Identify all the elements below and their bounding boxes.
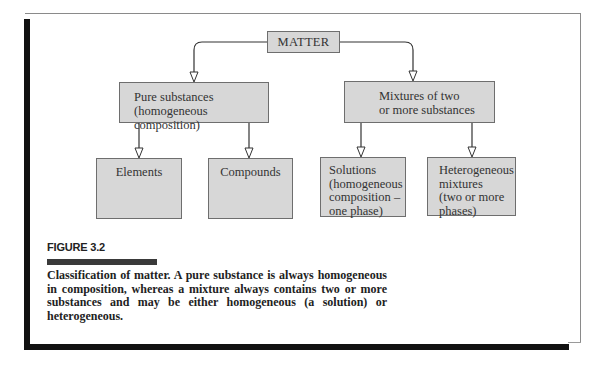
node-heterogeneous-mixtures: Heterogeneous mixtures (two or more phas…: [427, 157, 516, 216]
frame-right-foot: [568, 342, 581, 343]
figure-label-bar: [47, 259, 157, 265]
node-label: Pure substances (homogeneous composition…: [134, 90, 268, 132]
frame-top-border: [25, 13, 581, 14]
frame-left-bar: [24, 19, 30, 350]
node-elements: Elements: [96, 158, 182, 219]
arrowhead-icon: [357, 147, 365, 157]
node-matter: MATTER: [267, 31, 340, 53]
node-label: Solutions (homogeneous composition – one…: [329, 164, 405, 218]
node-label: Mixtures of two or more substances: [379, 89, 494, 117]
node-compounds: Compounds: [208, 158, 293, 219]
arrowhead-icon: [135, 148, 143, 158]
frame-right-border: [580, 13, 581, 343]
node-label: Heterogeneous mixtures (two or more phas…: [439, 164, 515, 218]
node-label: Compounds: [209, 165, 292, 179]
arrowhead-icon: [468, 147, 476, 157]
node-label: Elements: [97, 165, 181, 179]
figure-caption: Classification of matter. A pure substan…: [47, 269, 387, 323]
node-solutions: Solutions (homogeneous composition – one…: [320, 157, 406, 217]
connector-matter-pure: [194, 42, 267, 72]
node-pure-substances: Pure substances (homogeneous composition…: [119, 82, 269, 123]
node-mixtures: Mixtures of two or more substances: [344, 81, 495, 123]
arrowhead-icon: [409, 71, 417, 81]
frame-bottom-bar: [24, 344, 569, 350]
connector-matter-mixtures: [340, 42, 413, 71]
figure-label: FIGURE 3.2: [47, 241, 105, 253]
arrowhead-icon: [190, 72, 198, 82]
arrowhead-icon: [245, 148, 253, 158]
node-label: MATTER: [268, 35, 339, 49]
